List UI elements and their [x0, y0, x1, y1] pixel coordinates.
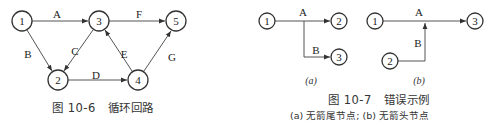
edge-G [144, 31, 171, 71]
svg-text:1: 1 [264, 15, 270, 27]
node-1: 1 [12, 11, 32, 31]
edge-E [105, 30, 132, 71]
node-2: 2 [48, 70, 68, 90]
caption-title: 错误示例 [384, 93, 430, 107]
figure-10-7-subcaption: (a) 无箭尾节点; (b) 无箭头节点 [290, 108, 429, 122]
svg-text:5: 5 [173, 15, 179, 27]
edge-label-A: A [415, 6, 423, 18]
caption-number: 图 10-7 [328, 93, 372, 107]
svg-text:4: 4 [135, 74, 141, 86]
edge-label-B: B [414, 37, 421, 49]
svg-text:2: 2 [336, 15, 342, 27]
svg-text:1: 1 [19, 15, 25, 27]
caption-number: 图 10-6 [52, 101, 96, 115]
node-5: 5 [166, 11, 186, 31]
node-1: 1 [367, 13, 383, 29]
svg-text:1: 1 [372, 15, 378, 27]
node-1: 1 [259, 13, 275, 29]
svg-text:3: 3 [472, 15, 478, 27]
node-3: 3 [89, 11, 109, 31]
node-4: 4 [128, 70, 148, 90]
edge-label-B: B [24, 48, 31, 60]
svg-text:2: 2 [55, 74, 61, 86]
edge-label-F: F [136, 8, 142, 20]
edge-label-D: D [92, 69, 100, 81]
svg-text:3: 3 [96, 15, 102, 27]
node-3: 3 [467, 13, 483, 29]
figure-10-7a-network: A B 1 2 3 (a) [259, 6, 347, 87]
edge-label-A: A [53, 8, 61, 20]
node-2: 2 [382, 53, 398, 69]
figure-10-6-caption: 图 10-6循环回路 [52, 99, 154, 115]
edge-label-B: B [312, 44, 319, 56]
caption-title: 循环回路 [108, 101, 154, 115]
edge-label-G: G [168, 51, 176, 63]
figure-10-7b-network: A B 1 2 3 (b) [367, 6, 483, 87]
edge-label-C: C [71, 45, 78, 57]
figure-10-7-caption: 图 10-7错误示例 [328, 91, 430, 107]
figure-10-6-network: A B C D E F G 1 3 5 2 4 [12, 8, 186, 90]
subfigure-label-a: (a) [305, 75, 317, 87]
svg-text:2: 2 [387, 55, 393, 67]
subfigure-label-b: (b) [413, 75, 425, 87]
edge-label-E: E [121, 48, 128, 60]
edge-label-A: A [299, 6, 307, 18]
svg-text:3: 3 [336, 51, 342, 63]
node-3: 3 [331, 49, 347, 65]
node-2: 2 [331, 13, 347, 29]
